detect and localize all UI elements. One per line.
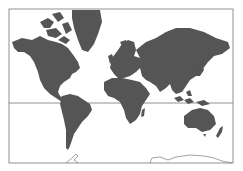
africa (104, 78, 150, 124)
madagascar (141, 108, 145, 117)
greenland (72, 10, 102, 52)
new-zealand (216, 126, 223, 138)
world-map (0, 0, 243, 171)
south-america (60, 94, 92, 150)
europe (110, 40, 142, 78)
asia (136, 28, 230, 94)
north-america (12, 36, 80, 102)
australia (184, 108, 216, 132)
tasmania (203, 134, 206, 137)
antarctica (66, 154, 232, 163)
